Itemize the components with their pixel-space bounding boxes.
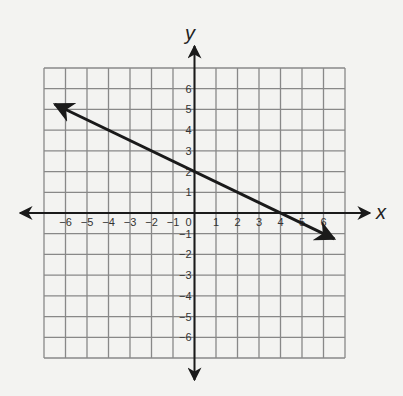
axes xyxy=(20,46,370,380)
x-tick-label: −6 xyxy=(59,216,72,228)
y-tick-label: −3 xyxy=(179,269,192,281)
coordinate-plane: −6−5−4−3−2−10123456654321−1−2−3−4−5−6 x … xyxy=(0,0,403,396)
x-axis-label: x xyxy=(375,201,387,223)
x-tick-label: −3 xyxy=(124,216,137,228)
x-tick-label: 3 xyxy=(256,216,262,228)
y-tick-label: −6 xyxy=(179,331,192,343)
y-tick-label: 4 xyxy=(185,124,191,136)
x-tick-label: 6 xyxy=(320,216,326,228)
y-tick-label: 3 xyxy=(185,145,191,157)
x-tick-label: −1 xyxy=(167,216,180,228)
y-tick-label: −1 xyxy=(179,228,192,240)
y-tick-label: 5 xyxy=(185,103,191,115)
x-tick-label: −2 xyxy=(145,216,158,228)
x-tick-label: −5 xyxy=(81,216,94,228)
x-tick-label: 2 xyxy=(234,216,240,228)
y-tick-label: 6 xyxy=(185,83,191,95)
x-tick-label: 0 xyxy=(185,216,191,228)
y-tick-label: 1 xyxy=(185,186,191,198)
x-tick-label: 4 xyxy=(277,216,283,228)
y-tick-label: −4 xyxy=(179,290,192,302)
x-tick-label: 1 xyxy=(213,216,219,228)
y-tick-label: −2 xyxy=(179,248,192,260)
y-axis-label: y xyxy=(183,22,196,44)
y-tick-label: −5 xyxy=(179,311,192,323)
x-tick-label: −4 xyxy=(102,216,115,228)
